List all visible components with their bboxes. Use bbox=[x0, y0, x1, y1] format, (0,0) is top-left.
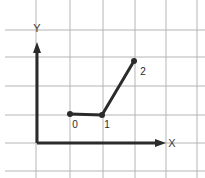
data-point-marker bbox=[67, 111, 73, 117]
data-point-marker bbox=[131, 58, 137, 64]
x-axis-label: X bbox=[168, 137, 176, 149]
data-point-label: 2 bbox=[140, 66, 146, 77]
series-path-group bbox=[67, 58, 137, 118]
data-point-label: 1 bbox=[104, 119, 110, 130]
axes bbox=[33, 42, 166, 147]
data-point-label: 0 bbox=[72, 119, 78, 130]
series-polyline bbox=[70, 61, 134, 115]
series-markers bbox=[67, 58, 137, 118]
up-arrow-icon bbox=[33, 42, 41, 53]
data-point-marker bbox=[99, 112, 105, 118]
right-arrow-icon bbox=[155, 139, 166, 147]
diagram-canvas: 012 X Y bbox=[0, 0, 205, 178]
y-axis-label: Y bbox=[33, 22, 41, 34]
coordinate-plot: 012 X Y bbox=[0, 0, 205, 178]
